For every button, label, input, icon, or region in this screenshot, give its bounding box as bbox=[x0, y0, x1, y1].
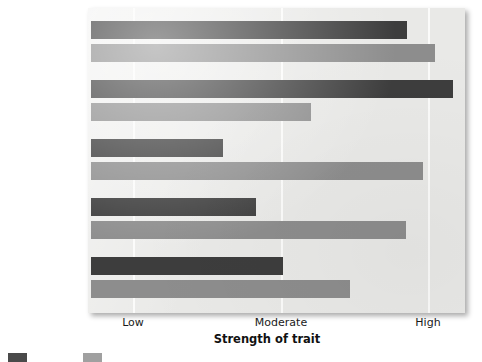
bar-nervousness-series2 bbox=[91, 162, 423, 180]
bar-nervousness-series1 bbox=[91, 139, 223, 157]
x-axis-title-text: Strength of trait bbox=[214, 332, 321, 346]
legend-swatch-1 bbox=[8, 353, 27, 362]
bar-generosity-series2 bbox=[91, 103, 311, 121]
bar-extraversion-series1 bbox=[91, 198, 256, 216]
x-tick-label-high: High bbox=[415, 316, 440, 329]
bar-industry-series2 bbox=[91, 44, 435, 62]
x-axis-title: Strength of trait bbox=[0, 332, 482, 346]
chart-legend bbox=[8, 353, 108, 362]
bar-aggression-series2 bbox=[91, 280, 350, 298]
bar-aggression-series1 bbox=[91, 257, 283, 275]
bar-chart-figure: IndustryGenerosityNervousnessExtraversio… bbox=[0, 0, 482, 362]
bar-generosity-series1 bbox=[91, 80, 453, 98]
legend-entry-1 bbox=[8, 353, 33, 362]
legend-entry-2 bbox=[83, 353, 108, 362]
plot-area bbox=[88, 8, 465, 313]
bar-industry-series1 bbox=[91, 21, 407, 39]
legend-swatch-2 bbox=[83, 353, 102, 362]
x-tick-label-moderate: Moderate bbox=[255, 316, 307, 329]
x-tick-label-low: Low bbox=[122, 316, 144, 329]
bar-extraversion-series2 bbox=[91, 221, 406, 239]
